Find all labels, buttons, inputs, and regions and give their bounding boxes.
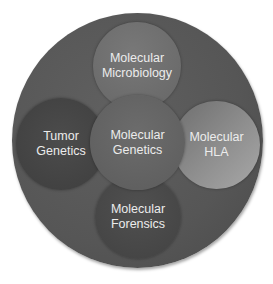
node-label-line1: Molecular xyxy=(110,128,164,143)
node-label-line2: Microbiology xyxy=(102,66,172,81)
node-label-line1: Molecular xyxy=(111,202,165,217)
node-molecular-hla: Molecular HLA xyxy=(173,101,260,189)
node-label-line2: Genetics xyxy=(110,143,164,158)
node-label-line2: HLA xyxy=(189,145,243,160)
node-label-line1: Molecular xyxy=(102,51,172,66)
node-label-line2: Genetics xyxy=(36,144,85,159)
specialties-diagram: Molecular Microbiology Tumor Genetics Mo… xyxy=(0,0,273,284)
node-molecular-genetics: Molecular Genetics xyxy=(90,95,185,190)
node-label-line2: Forensics xyxy=(111,217,165,232)
node-label-line1: Tumor xyxy=(36,129,85,144)
node-label-line1: Molecular xyxy=(189,130,243,145)
